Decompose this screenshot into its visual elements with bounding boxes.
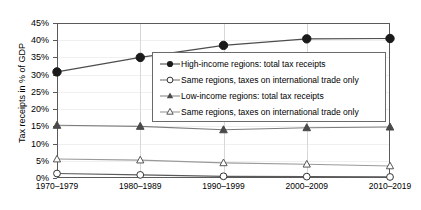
chart-container: Tax receipts in % of GDP 0%5%10%15%20%25… [0, 0, 421, 210]
legend-item: Same regions, taxes on international tra… [159, 72, 379, 88]
y-axis-title: Tax receipts in % of GDP [17, 13, 27, 173]
data-point-marker [303, 35, 311, 43]
y-axis-tick-label: 35% [31, 52, 49, 62]
y-axis-tick-label: 5% [36, 156, 49, 166]
y-axis-tick-label: 40% [31, 35, 49, 45]
data-point-marker [220, 173, 227, 180]
legend-label: Same regions, taxes on international tra… [181, 105, 359, 119]
legend-label: High-income regions: total tax receipts [181, 57, 326, 71]
data-point-marker [219, 41, 227, 49]
data-series [53, 155, 393, 169]
data-point-marker [387, 174, 394, 181]
legend-label: Same regions, taxes on international tra… [181, 73, 359, 87]
y-axis-tick-label: 20% [31, 104, 49, 114]
chart-legend: High-income regions: total tax receipts … [152, 52, 386, 122]
y-axis-tick-label: 10% [31, 139, 49, 149]
data-point-marker [136, 53, 144, 61]
legend-marker-open-circle-icon [159, 73, 181, 87]
legend-label: Low-income regions: total tax receipts [181, 89, 324, 103]
x-axis-tick-label: 1990–1999 [202, 181, 245, 191]
data-series [54, 170, 394, 180]
data-point-marker [137, 172, 144, 179]
data-point-marker [54, 170, 61, 177]
x-axis-tick-label: 1980–1989 [119, 181, 162, 191]
data-point-marker [386, 34, 394, 42]
data-series [53, 121, 394, 132]
legend-item: Low-income regions: total tax receipts [159, 88, 379, 104]
x-axis-tick-label: 2000–2009 [285, 181, 328, 191]
legend-marker-open-triangle-icon [159, 105, 181, 119]
y-axis-tick-label: 15% [31, 121, 49, 131]
data-point-marker [53, 68, 61, 76]
y-axis-tick-label: 30% [31, 70, 49, 80]
legend-item: High-income regions: total tax receipts [159, 56, 379, 72]
legend-marker-filled-triangle-icon [159, 89, 181, 103]
legend-item: Same regions, taxes on international tra… [159, 104, 379, 120]
y-axis-tick-label: 45% [31, 18, 49, 28]
y-axis-tick-mark [53, 178, 57, 179]
legend-marker-filled-circle-icon [159, 57, 181, 71]
x-axis-tick-label: 1970–1979 [36, 181, 79, 191]
data-point-marker [303, 173, 310, 180]
x-axis-tick-label: 2010–2019 [369, 181, 412, 191]
y-axis-tick-label: 25% [31, 87, 49, 97]
